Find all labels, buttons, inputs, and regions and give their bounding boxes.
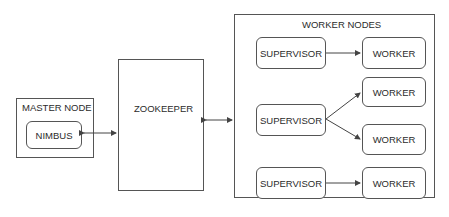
supervisor2-worker2-arrow	[326, 93, 360, 119]
supervisor2-worker3-arrow	[326, 119, 360, 139]
connector-arrows	[0, 0, 449, 217]
